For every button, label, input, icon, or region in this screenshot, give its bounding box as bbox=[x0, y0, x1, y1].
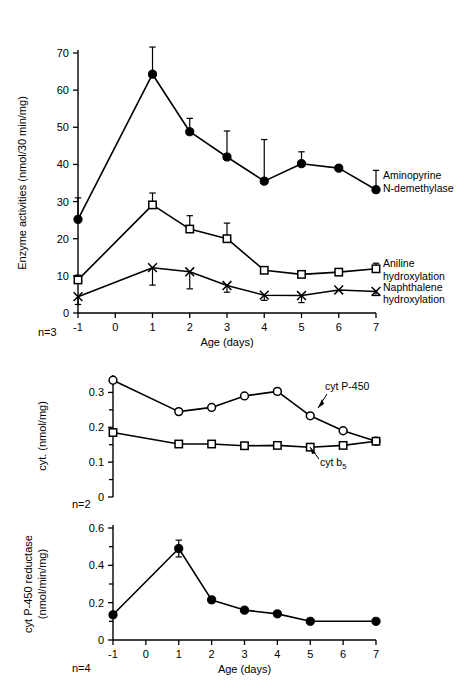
data-point bbox=[260, 177, 268, 185]
y-tick-label: 0 bbox=[98, 634, 104, 646]
data-point bbox=[335, 164, 343, 172]
data-point bbox=[74, 276, 81, 283]
data-point bbox=[273, 610, 281, 618]
sample-size-label: n=4 bbox=[72, 662, 91, 674]
y-tick-label: 70 bbox=[57, 47, 69, 59]
series-label-naphthalene: Naphthalene bbox=[383, 281, 443, 293]
x-tick-label: -1 bbox=[108, 648, 118, 660]
series-label-naphthalene: hydroxylation bbox=[383, 293, 445, 305]
data-point bbox=[261, 267, 268, 274]
y-tick-label: 0.6 bbox=[89, 522, 104, 534]
data-point bbox=[273, 387, 281, 395]
y-tick-label: 0 bbox=[98, 491, 104, 503]
data-point bbox=[339, 427, 347, 435]
data-point bbox=[335, 268, 342, 275]
data-point bbox=[372, 438, 379, 445]
x-tick-label: 6 bbox=[336, 321, 342, 333]
data-point bbox=[241, 392, 249, 400]
x-tick-label: 4 bbox=[274, 648, 280, 660]
x-tick-label: 3 bbox=[241, 648, 247, 660]
data-point bbox=[186, 128, 194, 136]
panel-enzyme-activities: 010203040506070-101234567Age (days)Enzym… bbox=[16, 47, 454, 348]
series-2 bbox=[74, 193, 379, 284]
sample-size-label: n=2 bbox=[72, 498, 91, 510]
data-point bbox=[241, 442, 248, 449]
series-label-cyt-b5: cyt b5 bbox=[320, 456, 346, 471]
y-tick-label: 20 bbox=[57, 233, 69, 245]
x-axis-label: Age (days) bbox=[200, 336, 253, 348]
x-tick-label: 7 bbox=[373, 321, 379, 333]
x-tick-label: 5 bbox=[298, 321, 304, 333]
data-point bbox=[306, 412, 314, 420]
data-point bbox=[223, 153, 231, 161]
data-point bbox=[74, 215, 82, 223]
data-point bbox=[208, 404, 216, 412]
x-axis-label: Age (days) bbox=[218, 663, 271, 675]
y-tick-label: 0 bbox=[63, 307, 69, 319]
data-point bbox=[175, 408, 183, 416]
y-tick-label: 0.3 bbox=[89, 386, 104, 398]
data-point bbox=[372, 617, 380, 625]
data-point bbox=[109, 429, 116, 436]
data-point bbox=[274, 442, 281, 449]
y-tick-label: 0.2 bbox=[89, 421, 104, 433]
data-point bbox=[208, 596, 216, 604]
x-tick-label: 2 bbox=[187, 321, 193, 333]
panel-cytochromes: 00.10.20.3cyt. (nmol/mg)n=2cyt P-450cyt … bbox=[36, 375, 380, 510]
cyt-b5-subscript: 5 bbox=[342, 462, 346, 471]
data-point bbox=[240, 606, 248, 614]
data-point bbox=[208, 440, 215, 447]
x-tick-label: 6 bbox=[340, 648, 346, 660]
y-tick-label: 0.1 bbox=[89, 456, 104, 468]
figure-container: 010203040506070-101234567Age (days)Enzym… bbox=[0, 0, 471, 691]
data-point bbox=[298, 271, 305, 278]
data-point bbox=[372, 265, 379, 272]
x-tick-label: 4 bbox=[261, 321, 267, 333]
data-point bbox=[149, 201, 156, 208]
data-point bbox=[148, 70, 156, 78]
data-point bbox=[109, 611, 117, 619]
sample-size-label: n=3 bbox=[38, 326, 57, 338]
multi-panel-figure: 010203040506070-101234567Age (days)Enzym… bbox=[0, 0, 471, 691]
x-tick-label: 1 bbox=[149, 321, 155, 333]
x-tick-label: -1 bbox=[73, 321, 83, 333]
data-point bbox=[306, 617, 314, 625]
x-tick-label: 3 bbox=[224, 321, 230, 333]
y-tick-label: 10 bbox=[57, 270, 69, 282]
series-label-aniline: Aniline bbox=[383, 257, 415, 269]
y-axis-label: cyt P-450 reductase bbox=[22, 535, 34, 633]
y-tick-label: 50 bbox=[57, 121, 69, 133]
series-label-cyt-p450: cyt P-450 bbox=[325, 380, 370, 392]
data-point bbox=[109, 376, 117, 384]
x-tick-label: 0 bbox=[112, 321, 118, 333]
data-point bbox=[175, 544, 183, 552]
x-tick-label: 1 bbox=[176, 648, 182, 660]
y-tick-label: 0.2 bbox=[89, 597, 104, 609]
y-tick-label: 30 bbox=[57, 196, 69, 208]
data-point bbox=[372, 186, 380, 194]
x-tick-label: 5 bbox=[307, 648, 313, 660]
data-point bbox=[339, 442, 346, 449]
series-1 bbox=[109, 540, 380, 625]
series-1 bbox=[74, 47, 380, 223]
y-axis-label: (nmol/min/mg) bbox=[36, 549, 48, 619]
x-tick-label: 2 bbox=[209, 648, 215, 660]
panel-reductase: 00.20.40.6-101234567Age (days)cyt P-450 … bbox=[22, 522, 380, 675]
series-label-aminopyrine: Aminopyrine bbox=[383, 169, 442, 181]
data-point bbox=[186, 225, 193, 232]
y-axis-label: Enzyme activities (nmol/30 min/mg) bbox=[16, 96, 28, 270]
series-label-aminopyrine: N-demethylase bbox=[383, 182, 454, 194]
y-axis-label: cyt. (nmol/mg) bbox=[36, 401, 48, 471]
x-tick-label: 7 bbox=[373, 648, 379, 660]
y-tick-label: 0.4 bbox=[89, 559, 104, 571]
y-tick-label: 40 bbox=[57, 158, 69, 170]
data-point bbox=[175, 440, 182, 447]
data-point bbox=[297, 160, 305, 168]
x-tick-label: 0 bbox=[143, 648, 149, 660]
data-point bbox=[223, 235, 230, 242]
y-tick-label: 60 bbox=[57, 84, 69, 96]
